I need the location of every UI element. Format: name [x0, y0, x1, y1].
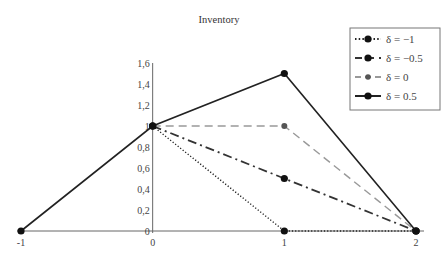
legend-marker — [364, 54, 371, 61]
legend-marker — [364, 35, 371, 42]
y-tick-label: 0,8 — [137, 142, 150, 153]
y-tick-label: 1,4 — [137, 79, 150, 90]
y-tick-label: 0,4 — [137, 184, 150, 195]
x-tick-label: 0 — [150, 237, 155, 248]
y-tick-label: 0 — [145, 226, 150, 237]
y-tick-label: 1,6 — [137, 58, 150, 69]
data-point — [281, 123, 287, 129]
y-tick-label: 0,6 — [137, 163, 150, 174]
data-point — [17, 227, 24, 234]
y-tick-label: 1,2 — [137, 100, 150, 111]
legend-label: δ = 0 — [386, 71, 409, 83]
chart-title: Inventory — [199, 14, 241, 25]
data-point — [412, 227, 419, 234]
legend-label: δ = 0.5 — [386, 90, 417, 102]
data-point — [281, 175, 288, 182]
legend-label: δ = −0.5 — [386, 52, 423, 64]
x-tick-label: 1 — [282, 237, 287, 248]
legend-marker — [364, 92, 371, 99]
data-point — [281, 70, 288, 77]
inventory-chart: Inventory -101200,20,40,60,811,21,41,6 δ… — [0, 0, 441, 258]
data-point — [281, 227, 288, 234]
legend-label: δ = −1 — [386, 33, 415, 45]
x-tick-label: 2 — [414, 237, 419, 248]
legend: δ = −1δ = −0.5δ = 0δ = 0.5 — [350, 28, 440, 110]
legend-marker — [365, 74, 371, 80]
data-point — [149, 122, 156, 129]
y-tick-label: 0,2 — [137, 205, 150, 216]
x-tick-label: -1 — [17, 237, 25, 248]
